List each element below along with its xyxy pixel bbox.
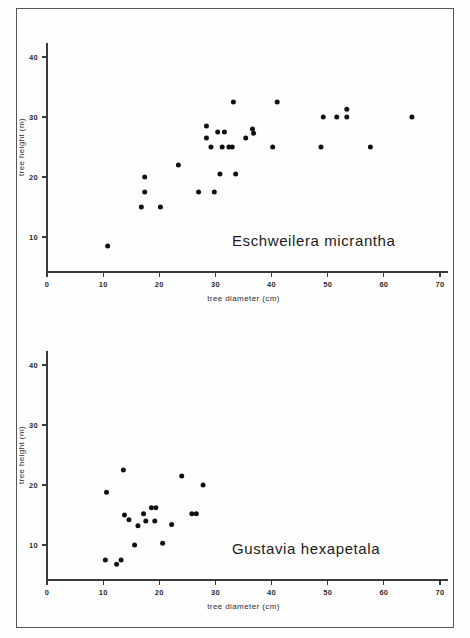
data-point [215, 130, 220, 135]
data-point [142, 190, 147, 195]
data-point [212, 190, 217, 195]
figure-page: 10203040010203040506070tree diameter (cm… [0, 0, 470, 638]
data-point [121, 468, 126, 473]
y-tick-label-10: 10 [29, 541, 38, 550]
scatter-plot-eschweilera: 10203040010203040506070tree diameter (cm… [0, 14, 470, 314]
x-tick-label-60: 60 [379, 280, 388, 289]
y-tick-label-10: 10 [29, 233, 38, 242]
data-point [169, 522, 174, 527]
data-point [344, 107, 349, 112]
data-point [132, 543, 137, 548]
data-point [196, 190, 201, 195]
data-point [201, 483, 206, 488]
data-point [103, 558, 108, 563]
data-point [204, 124, 209, 129]
y-axis-title: tree height (m) [17, 118, 26, 176]
data-point [194, 511, 199, 516]
x-tick-label-0: 0 [45, 588, 49, 597]
species-label: Gustavia hexapetala [232, 540, 380, 557]
data-point [208, 145, 213, 150]
scatter-plot-gustavia: 10203040010203040506070tree diameter (cm… [0, 322, 470, 622]
data-point [204, 136, 209, 141]
data-point [344, 115, 349, 120]
x-tick-label-30: 30 [211, 280, 220, 289]
species-label: Eschweilera micrantha [232, 232, 396, 249]
y-tick-label-40: 40 [29, 361, 38, 370]
data-point [153, 505, 158, 510]
data-point [152, 519, 157, 524]
data-point [251, 131, 256, 136]
x-axis-title: tree diameter (cm) [207, 294, 280, 303]
data-point [250, 127, 255, 132]
data-point [176, 163, 181, 168]
data-point [243, 136, 248, 141]
x-tick-label-60: 60 [379, 588, 388, 597]
data-point [368, 145, 373, 150]
data-point [179, 474, 184, 479]
data-point [158, 205, 163, 210]
x-tick-label-20: 20 [155, 588, 164, 597]
data-point-group [105, 100, 414, 249]
x-tick-label-0: 0 [45, 280, 49, 289]
y-tick-label-30: 30 [29, 421, 38, 430]
data-point [189, 511, 194, 516]
scatter-panel-eschweilera: 10203040010203040506070tree diameter (cm… [0, 14, 470, 314]
x-tick-label-10: 10 [99, 588, 108, 597]
y-tick-label-20: 20 [29, 481, 38, 490]
x-tick-label-40: 40 [267, 280, 276, 289]
data-point [104, 490, 109, 495]
x-tick-label-70: 70 [436, 280, 445, 289]
data-point [143, 519, 148, 524]
data-point [141, 511, 146, 516]
scatter-panel-gustavia: 10203040010203040506070tree diameter (cm… [0, 322, 470, 622]
data-point [233, 172, 238, 177]
data-point [275, 100, 280, 105]
data-point [122, 513, 127, 518]
data-point [217, 172, 222, 177]
x-tick-label-20: 20 [155, 280, 164, 289]
data-point [142, 175, 147, 180]
x-tick-label-10: 10 [99, 280, 108, 289]
data-point [321, 115, 326, 120]
data-point [160, 541, 165, 546]
data-point [105, 244, 110, 249]
y-tick-label-40: 40 [29, 53, 38, 62]
data-point [139, 205, 144, 210]
x-tick-label-30: 30 [211, 588, 220, 597]
data-point [222, 130, 227, 135]
x-axis-title: tree diameter (cm) [207, 602, 280, 611]
data-point [119, 558, 124, 563]
x-tick-label-50: 50 [323, 280, 332, 289]
y-tick-label-30: 30 [29, 113, 38, 122]
data-point [114, 562, 119, 567]
data-point [220, 145, 225, 150]
data-point [126, 517, 131, 522]
data-point [149, 505, 154, 510]
x-tick-label-70: 70 [436, 588, 445, 597]
data-point [409, 115, 414, 120]
y-axis-title: tree height (m) [17, 426, 26, 484]
data-point [270, 145, 275, 150]
x-tick-label-40: 40 [267, 588, 276, 597]
data-point [231, 100, 236, 105]
data-point [230, 145, 235, 150]
data-point [318, 145, 323, 150]
x-tick-label-50: 50 [323, 588, 332, 597]
data-point [135, 523, 140, 528]
y-tick-label-20: 20 [29, 173, 38, 182]
data-point-group [103, 468, 206, 567]
data-point [334, 115, 339, 120]
